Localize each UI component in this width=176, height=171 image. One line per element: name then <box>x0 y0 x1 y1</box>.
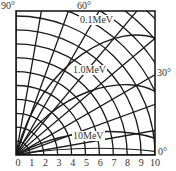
polar-diagram: 90°60°30°0°0.1MeV1.0MeV10MeV012345678910 <box>0 0 176 171</box>
x-tick-label: 10 <box>150 158 160 168</box>
grid-lines <box>0 0 176 171</box>
angle-label: 90° <box>1 1 15 11</box>
energy-label: 0.1MeV <box>79 15 114 25</box>
x-tick-label: 8 <box>125 158 130 168</box>
x-tick-label: 1 <box>29 158 34 168</box>
x-tick-label: 6 <box>98 158 103 168</box>
x-tick-label: 2 <box>43 158 48 168</box>
x-tick-label: 4 <box>70 158 75 168</box>
x-tick-label: 9 <box>139 158 144 168</box>
diagram-canvas <box>0 0 176 171</box>
x-tick-label: 7 <box>111 158 116 168</box>
x-tick-label: 5 <box>84 158 89 168</box>
energy-label: 1.0MeV <box>72 65 107 75</box>
angle-label: 60° <box>77 1 91 11</box>
angle-label: 0° <box>158 147 167 157</box>
x-tick-label: 3 <box>57 158 62 168</box>
x-tick-label: 0 <box>16 158 21 168</box>
energy-label: 10MeV <box>72 131 105 141</box>
angle-label: 30° <box>157 68 171 78</box>
